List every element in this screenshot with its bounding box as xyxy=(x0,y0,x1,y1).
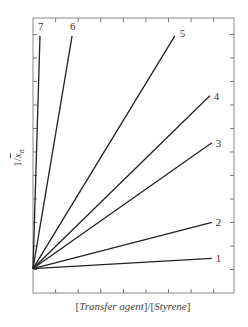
line-label-7: 7 xyxy=(38,20,44,32)
x-axis-label: [Transfer agent]/[Styrene] xyxy=(0,300,248,312)
series-line-3 xyxy=(33,143,212,269)
line-label-1: 1 xyxy=(216,252,222,264)
chart-canvas: 1234567 xyxy=(0,0,248,327)
series-line-2 xyxy=(33,222,212,268)
plot-frame xyxy=(33,18,234,293)
line-label-6: 6 xyxy=(70,20,76,32)
y-axis-label: 1/xn xyxy=(11,141,27,175)
line-labels: 1234567 xyxy=(38,20,222,265)
line-label-5: 5 xyxy=(180,27,186,39)
line-label-3: 3 xyxy=(216,137,222,149)
series-line-4 xyxy=(33,96,210,269)
axis-ticks xyxy=(33,18,234,293)
line-label-2: 2 xyxy=(216,216,222,228)
data-lines xyxy=(33,36,212,269)
line-label-4: 4 xyxy=(214,90,220,102)
series-line-1 xyxy=(33,258,212,268)
series-line-5 xyxy=(33,36,175,269)
